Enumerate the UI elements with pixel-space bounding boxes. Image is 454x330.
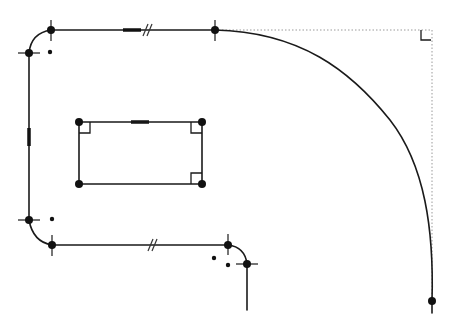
arc-centers bbox=[48, 50, 230, 267]
vertex-point[interactable] bbox=[224, 241, 232, 249]
vertex-point[interactable] bbox=[25, 49, 33, 57]
vertex-point[interactable] bbox=[48, 241, 56, 249]
bottom-right-fillet-arc[interactable] bbox=[228, 245, 247, 264]
vertex-point[interactable] bbox=[25, 216, 33, 224]
sketch-canvas[interactable] bbox=[0, 0, 454, 330]
rect-vertex[interactable] bbox=[198, 118, 206, 126]
arc-center-point[interactable] bbox=[212, 256, 216, 260]
profile-vertices bbox=[25, 26, 436, 305]
top-left-fillet-arc[interactable] bbox=[29, 30, 51, 53]
rect-vertex[interactable] bbox=[75, 180, 83, 188]
tangent-ticks bbox=[18, 20, 258, 264]
spline-endpoint[interactable] bbox=[428, 297, 436, 305]
arc-center-point[interactable] bbox=[48, 50, 52, 54]
bottom-left-fillet-arc[interactable] bbox=[29, 220, 52, 245]
rect-vertex[interactable] bbox=[198, 180, 206, 188]
constraint-glyphs bbox=[29, 24, 157, 251]
rect-vertex[interactable] bbox=[75, 118, 83, 126]
vertex-point[interactable] bbox=[47, 26, 55, 34]
vertex-point[interactable] bbox=[243, 260, 251, 268]
vertex-point[interactable] bbox=[211, 26, 219, 34]
outer-profile bbox=[29, 30, 432, 313]
right-angle-icon bbox=[421, 30, 431, 40]
arc-center-point[interactable] bbox=[50, 217, 54, 221]
arc-center-point[interactable] bbox=[226, 263, 230, 267]
inner-rectangle bbox=[75, 118, 206, 188]
